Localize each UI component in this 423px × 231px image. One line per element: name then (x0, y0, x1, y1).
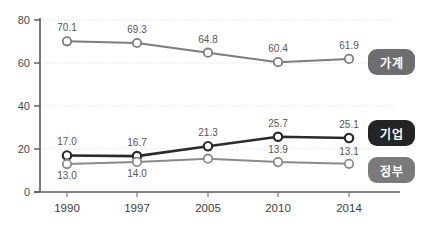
legend-badge-government[interactable]: 정부 (368, 157, 415, 183)
data-point-marker[interactable] (274, 58, 282, 66)
x-tick-label-2014: 2014 (336, 202, 362, 214)
x-tick-label-1990: 1990 (54, 202, 80, 214)
data-point-marker[interactable] (63, 151, 71, 159)
legend-badge-household[interactable]: 가계 (368, 49, 415, 75)
data-point-marker[interactable] (133, 39, 141, 47)
data-point-marker[interactable] (274, 158, 282, 166)
x-axis-tick-labels: 1990 1997 2005 2010 2014 (54, 202, 362, 214)
y-tick-label-80: 80 (18, 14, 30, 26)
y-tick-label-40: 40 (18, 100, 30, 112)
point-value-label: 61.9 (339, 40, 359, 51)
chart-canvas: 80 60 40 20 0 1990 1997 2005 2010 2014 7… (0, 0, 423, 231)
data-point-marker[interactable] (345, 134, 353, 142)
point-value-label: 70.1 (57, 22, 77, 33)
point-value-label: 64.8 (198, 34, 218, 45)
x-tick-label-1997: 1997 (124, 202, 150, 214)
legend-badge-corporate[interactable]: 기업 (368, 120, 415, 146)
point-value-label: 60.4 (268, 43, 288, 54)
point-value-label: 13.0 (57, 170, 77, 181)
data-point-marker[interactable] (345, 55, 353, 63)
point-value-label: 21.3 (198, 127, 218, 138)
line-chart: 80 60 40 20 0 1990 1997 2005 2010 2014 7… (0, 0, 423, 231)
data-point-marker[interactable] (204, 142, 212, 150)
data-point-marker[interactable] (133, 158, 141, 166)
data-point-marker[interactable] (204, 48, 212, 56)
point-value-label: 17.0 (57, 136, 77, 147)
y-axis-tick-labels: 80 60 40 20 0 (18, 14, 30, 198)
point-value-label: 25.1 (339, 119, 359, 130)
x-tick-label-2010: 2010 (265, 202, 291, 214)
x-tick-label-2005: 2005 (195, 202, 221, 214)
data-point-marker[interactable] (204, 154, 212, 162)
point-value-label: 14.0 (127, 168, 147, 179)
point-value-label: 25.7 (268, 118, 288, 129)
data-point-marker[interactable] (274, 133, 282, 141)
point-value-label: 13.9 (268, 144, 288, 155)
data-point-marker[interactable] (63, 160, 71, 168)
y-tick-label-60: 60 (18, 57, 30, 69)
y-tick-label-0: 0 (24, 186, 30, 198)
data-point-marker[interactable] (345, 160, 353, 168)
data-point-marker[interactable] (63, 37, 71, 45)
point-value-label: 69.3 (127, 24, 147, 35)
y-tick-label-20: 20 (18, 143, 30, 155)
point-value-label: 13.1 (339, 146, 359, 157)
point-value-label: 16.7 (127, 137, 147, 148)
